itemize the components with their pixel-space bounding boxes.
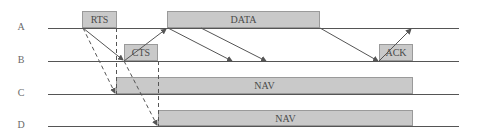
rts-to-c-dashed-arrow bbox=[83, 28, 115, 93]
data-end-arrow bbox=[320, 28, 378, 61]
cts-to-a-arrow bbox=[124, 29, 166, 61]
ack-to-a-arrow bbox=[379, 29, 411, 61]
cts-to-d-dashed-arrow bbox=[124, 61, 157, 125]
timeline-and-arrows bbox=[0, 0, 480, 138]
data-mid-arrow bbox=[201, 28, 266, 61]
timing-diagram: A B C D RTS CTS DATA ACK NAV NAV bbox=[0, 0, 480, 138]
data-start-arrow bbox=[168, 28, 232, 61]
